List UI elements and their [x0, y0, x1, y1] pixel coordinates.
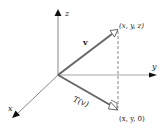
x-axis: [12, 75, 58, 118]
vector-Tv-arrowhead-icon: [109, 102, 119, 110]
vector-Tv-label: T(v): [72, 95, 90, 109]
z-axis-arrowhead-icon: [55, 9, 62, 16]
y-axis: [58, 73, 157, 78]
z-axis: [55, 9, 62, 75]
z-axis-label: z: [64, 9, 70, 18]
vector-v-arrowhead-icon: [110, 30, 118, 38]
point-xyz-label: (x, y, z): [119, 22, 144, 30]
vector-v: [58, 30, 118, 76]
y-axis-label: y: [151, 62, 157, 71]
vector-v-label: v: [82, 37, 88, 47]
point-xy0-label: (x, y, 0): [119, 115, 145, 123]
diagram-canvas: z y x v T(v) (x, y, z) (x, y, 0): [0, 0, 164, 132]
x-axis-label: x: [8, 104, 13, 113]
y-axis-arrowhead-icon: [149, 73, 157, 78]
